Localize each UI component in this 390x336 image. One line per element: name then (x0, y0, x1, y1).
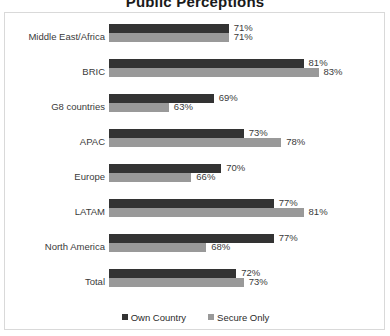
bar-value-label: 73% (249, 127, 268, 138)
bar-secure-only (109, 278, 244, 287)
bar-value-label: 73% (249, 276, 268, 287)
legend-label: Own Country (131, 312, 186, 323)
bar-secure-only (109, 138, 281, 147)
bar-group: Middle East/Africa71%71% (5, 19, 386, 54)
bar-value-label: 69% (219, 92, 238, 103)
bar-value-label: 81% (309, 206, 328, 217)
bar-own-country (109, 59, 304, 68)
category-label: Middle East/Africa (5, 26, 105, 48)
chart-title: Public Perceptions (0, 0, 390, 10)
bar-own-country (109, 24, 229, 33)
legend-label: Secure Only (217, 312, 269, 323)
bar-pair: 70%66% (109, 164, 386, 182)
category-label: North America (5, 236, 105, 258)
bar-track: 73% (109, 278, 386, 287)
bar-track: 69% (109, 94, 386, 103)
bar-track: 70% (109, 164, 386, 173)
category-label: G8 countries (5, 96, 105, 118)
bar-track: 77% (109, 234, 386, 243)
bar-value-label: 66% (196, 171, 215, 182)
legend-item-own-country[interactable]: Own Country (122, 311, 186, 323)
category-label: LATAM (5, 201, 105, 223)
bar-pair: 77%81% (109, 199, 386, 217)
bar-value-label: 83% (324, 66, 343, 77)
bar-value-label: 78% (286, 136, 305, 147)
bar-value-label: 70% (226, 162, 245, 173)
bar-own-country (109, 129, 244, 138)
category-label: APAC (5, 131, 105, 153)
bar-group: LATAM77%81% (5, 194, 386, 229)
bar-pair: 69%63% (109, 94, 386, 112)
chart-plot-area: Middle East/Africa71%71%BRIC81%83%G8 cou… (4, 12, 385, 330)
category-label: Europe (5, 166, 105, 188)
bar-track: 72% (109, 269, 386, 278)
bar-group: Europe70%66% (5, 159, 386, 194)
bar-own-country (109, 94, 214, 103)
bar-rows: Middle East/Africa71%71%BRIC81%83%G8 cou… (5, 19, 386, 299)
bar-track: 83% (109, 68, 386, 77)
bar-group: APAC73%78% (5, 124, 386, 159)
category-label: BRIC (5, 61, 105, 83)
bar-value-label: 63% (174, 101, 193, 112)
bar-group: G8 countries69%63% (5, 89, 386, 124)
bar-own-country (109, 199, 274, 208)
bar-group: North America77%68% (5, 229, 386, 264)
bar-group: Total72%73% (5, 264, 386, 299)
bar-pair: 73%78% (109, 129, 386, 147)
bar-track: 81% (109, 59, 386, 68)
bar-own-country (109, 234, 274, 243)
bar-pair: 77%68% (109, 234, 386, 252)
bar-value-label: 77% (279, 232, 298, 243)
bar-track: 71% (109, 33, 386, 42)
bar-track: 68% (109, 243, 386, 252)
bar-secure-only (109, 173, 191, 182)
bar-secure-only (109, 103, 169, 112)
bar-track: 81% (109, 208, 386, 217)
bar-value-label: 71% (234, 31, 253, 42)
bar-pair: 72%73% (109, 269, 386, 287)
bar-track: 66% (109, 173, 386, 182)
bar-secure-only (109, 68, 319, 77)
legend-swatch-icon (122, 314, 128, 320)
bar-track: 78% (109, 138, 386, 147)
bar-value-label: 68% (211, 241, 230, 252)
bar-group: BRIC81%83% (5, 54, 386, 89)
bar-own-country (109, 269, 236, 278)
bar-pair: 81%83% (109, 59, 386, 77)
bar-track: 73% (109, 129, 386, 138)
bar-track: 77% (109, 199, 386, 208)
legend-item-secure-only[interactable]: Secure Only (208, 311, 269, 323)
bar-secure-only (109, 208, 304, 217)
chart-legend: Own CountrySecure Only (5, 311, 386, 323)
legend-swatch-icon (208, 314, 214, 320)
bar-pair: 71%71% (109, 24, 386, 42)
bar-track: 63% (109, 103, 386, 112)
category-label: Total (5, 271, 105, 293)
bar-value-label: 77% (279, 197, 298, 208)
bar-secure-only (109, 33, 229, 42)
bar-secure-only (109, 243, 206, 252)
